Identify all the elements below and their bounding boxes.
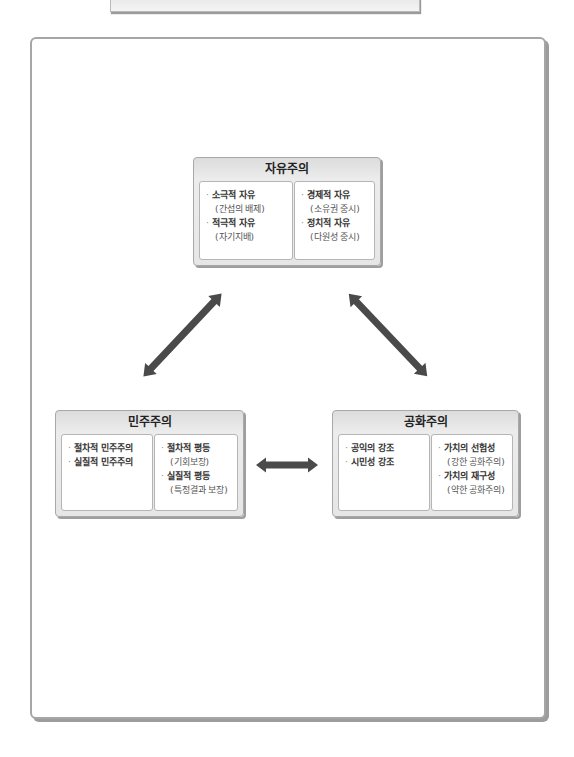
double-arrow-icon-liberalism-democracy [0,0,574,757]
